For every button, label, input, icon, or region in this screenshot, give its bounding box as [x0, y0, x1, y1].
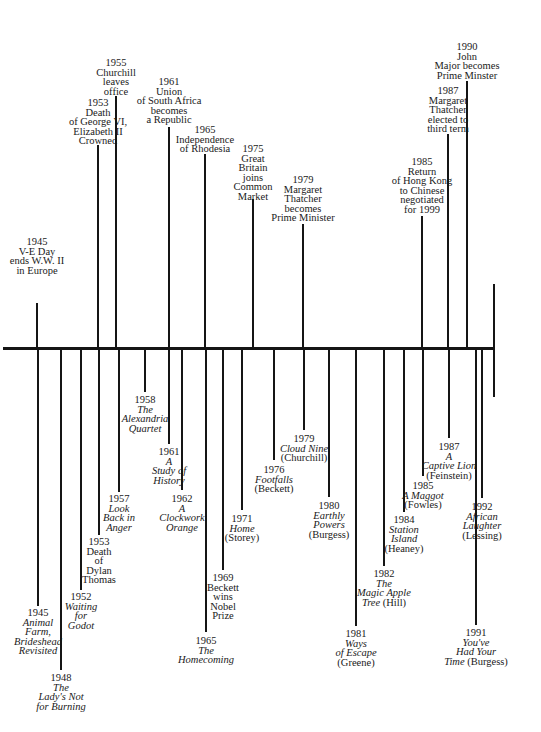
- work-text-line: Revisited: [14, 646, 62, 656]
- event-tick-below: [481, 349, 483, 498]
- literary-work-label: 1985A Maggot(Fowles): [402, 481, 444, 510]
- literary-work-label: 1980EarthlyPowers(Burgess): [309, 501, 350, 539]
- literary-work-label: 1952WaitingforGodot: [65, 592, 97, 630]
- event-tick-below: [303, 349, 305, 430]
- event-tick-above: [36, 303, 38, 348]
- event-text-line: of Rhodesia: [176, 144, 234, 154]
- event-text-line: for 1999: [392, 205, 453, 215]
- literary-work-label: 1958TheAlexandriaQuartet: [122, 395, 169, 433]
- historical-event-label: 1975GreatBritainjoinsCommonMarket: [233, 144, 272, 201]
- literary-work-label: 1945AnimalFarm,BridesheadRevisited: [14, 608, 62, 656]
- event-tick-above: [115, 96, 117, 348]
- literary-work-label: 1965TheHomecoming: [178, 636, 234, 665]
- event-tick-below: [181, 349, 183, 490]
- event-tick-below: [273, 349, 275, 460]
- event-tick-below: [37, 349, 39, 606]
- work-text-line: for Burning: [36, 702, 85, 712]
- event-text-line: third term: [427, 124, 469, 134]
- event-tick-below: [448, 349, 450, 438]
- work-text-line: (Heaney): [384, 544, 423, 554]
- event-tick-above: [168, 127, 170, 348]
- event-tick-below: [144, 349, 146, 392]
- literary-work-label: 1953DeathofDylanThomas: [82, 537, 116, 585]
- event-tick-above: [302, 224, 304, 348]
- historical-event-label: 1965Independenceof Rhodesia: [176, 125, 234, 154]
- timeline-diagram: 1945V-E Dayends W.W. IIin Europe1953Deat…: [0, 0, 541, 732]
- event-tick-below: [475, 349, 477, 625]
- literary-work-label: 1982TheMagic AppleTree (Hill): [357, 569, 411, 607]
- event-tick-below: [60, 349, 62, 670]
- event-text-line: Market: [233, 192, 272, 202]
- event-tick-below: [118, 349, 120, 492]
- historical-event-label: 1990JohnMajor becomesPrime Minster: [434, 42, 499, 80]
- historical-event-label: 1979MargaretThatcherbecomesPrime Ministe…: [271, 175, 334, 223]
- work-text-line: Orange: [159, 523, 205, 533]
- work-text-line: (Greene): [335, 658, 376, 668]
- work-text-line: Tree (Hill): [357, 598, 411, 608]
- literary-work-label: 1987ACaptive Lion(Feinstein): [422, 442, 477, 480]
- work-text-line: (Churchill): [280, 453, 328, 463]
- event-tick-above: [204, 154, 206, 348]
- literary-work-label: 1981Waysof Escape(Greene): [335, 629, 376, 667]
- event-tick-below: [98, 349, 100, 535]
- event-text-line: Prime Minster: [434, 71, 499, 81]
- literary-work-label: 1948TheLady's Notfor Burning: [36, 673, 85, 711]
- event-tick-above: [466, 81, 468, 348]
- work-text-line: Quartet: [122, 424, 169, 434]
- work-text-line: (Burgess): [309, 530, 350, 540]
- work-text-line: (Beckett): [254, 484, 293, 494]
- event-text-line: office: [96, 87, 136, 97]
- historical-event-label: 1955Churchillleavesoffice: [96, 58, 136, 96]
- work-text-line: Godot: [65, 621, 97, 631]
- historical-event-label: 1961Unionof South Africabecomesa Republi…: [137, 77, 202, 125]
- event-tick-above: [447, 134, 449, 348]
- event-tick-above: [97, 145, 99, 348]
- literary-work-label: 1992AfricanLaughter(Lessing): [462, 502, 502, 540]
- historical-event-label: 1987MargaretThatcherelected tothird term: [427, 86, 469, 134]
- event-tick-below: [168, 349, 170, 444]
- literary-work-label: 1984StationIsland(Heaney): [384, 515, 423, 553]
- historical-event-label: 1985Returnof Hong Kongto Chinesenegotiat…: [392, 157, 453, 214]
- event-tick-above: [252, 199, 254, 348]
- event-tick-below: [222, 349, 224, 570]
- historical-event-label: 1953Deathof George VI,Elizabeth IICrowne…: [69, 98, 127, 146]
- event-text-line: Prime Minister: [271, 213, 334, 223]
- literary-work-label: 1971Home(Storey): [225, 514, 259, 543]
- literary-work-label: 1969BeckettwinsNobelPrize: [207, 573, 239, 621]
- work-text-line: Time (Burgess): [444, 657, 508, 667]
- work-text-line: Anger: [103, 523, 135, 533]
- literary-work-label: 1979Cloud Nine(Churchill): [280, 434, 328, 463]
- work-text-line: (Fowles): [402, 500, 444, 510]
- event-text-line: in Europe: [10, 266, 64, 276]
- event-tick-above: [421, 216, 423, 348]
- event-tick-below: [328, 349, 330, 497]
- work-text-line: Homecoming: [178, 655, 234, 665]
- timeline-end-marker: [493, 284, 495, 397]
- historical-event-label: 1945V-E Dayends W.W. IIin Europe: [10, 237, 64, 275]
- event-text-line: a Republic: [137, 115, 202, 125]
- work-text-line: (Storey): [225, 533, 259, 543]
- event-tick-below: [241, 349, 243, 510]
- work-text-line: (Feinstein): [422, 471, 477, 481]
- literary-work-label: 1991You'veHad YourTime (Burgess): [444, 628, 508, 666]
- literary-work-label: 1962AClockworkOrange: [159, 494, 205, 532]
- work-text-line: (Lessing): [462, 531, 502, 541]
- work-text-line: Thomas: [82, 575, 116, 585]
- event-text-line: Crowned: [69, 136, 127, 146]
- literary-work-label: 1957LookBack inAnger: [103, 494, 135, 532]
- literary-work-label: 1976Footfalls(Beckett): [254, 465, 293, 494]
- work-text-line: Prize: [207, 611, 239, 621]
